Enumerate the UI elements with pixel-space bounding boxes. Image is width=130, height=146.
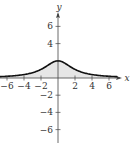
y-axis-label: y: [55, 2, 62, 12]
y-tick-label: −4: [40, 107, 54, 117]
y-tick-label: 4: [47, 39, 53, 49]
y-tick-label: 6: [47, 21, 53, 31]
x-axis-label: x: [124, 73, 129, 83]
x-tick-label: 2: [72, 81, 78, 91]
chart: −6−4−224664−2−4−6yx: [0, 0, 130, 146]
x-tick-label: 4: [89, 81, 95, 91]
x-tick-label: −4: [17, 81, 31, 91]
y-tick-label: −2: [40, 90, 53, 100]
y-tick-label: −6: [40, 125, 54, 135]
x-tick-label: 6: [106, 81, 112, 91]
x-tick-label: −6: [0, 81, 14, 91]
